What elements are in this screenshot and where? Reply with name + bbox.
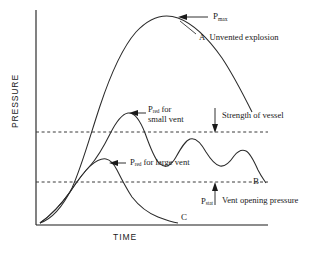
curve-c-label: C xyxy=(181,212,187,222)
p-max-leader xyxy=(178,14,208,20)
curve-b-small-vent xyxy=(40,113,266,223)
p-red-large-vent-label: Pred for large vent xyxy=(130,158,190,168)
p-max-label: Pmax xyxy=(213,11,227,21)
strength-of-vessel-label: Strength of vessel xyxy=(222,111,284,121)
vent-opening-pressure-label: Vent opening pressure xyxy=(222,196,298,206)
p-red-small-vent-leader xyxy=(129,110,146,116)
strength-of-vessel-arrow xyxy=(212,108,218,133)
curve-a-unvented-explosion xyxy=(40,16,252,223)
curve-c-large-vent xyxy=(40,159,178,223)
p-red-small-vent-label: Pred for small vent xyxy=(148,105,184,124)
p-stat-label: Pstat xyxy=(201,197,213,207)
curve-b-label: B xyxy=(253,176,259,186)
curve-a-caption: A Unvented explosion xyxy=(199,33,279,43)
x-axis-label: TIME xyxy=(0,232,250,242)
p-red-large-vent-leader xyxy=(109,160,126,166)
y-axis-label: PRESSURE xyxy=(10,65,20,137)
pressure-time-diagram: PRESSURE TIME Pmax A Unvented explosion … xyxy=(0,0,328,253)
